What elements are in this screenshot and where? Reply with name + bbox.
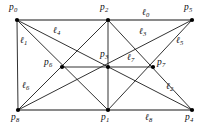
line-label-subscript: 3 bbox=[143, 30, 146, 37]
point-label-subscript: 5 bbox=[189, 6, 192, 13]
configuration-canvas bbox=[0, 0, 208, 130]
vertex-p3[interactable] bbox=[106, 65, 110, 69]
vertex-p2[interactable] bbox=[106, 18, 110, 22]
line-label-l7: ℓ7 bbox=[127, 53, 134, 62]
point-label-p5: p5 bbox=[184, 3, 192, 13]
vertex-p7[interactable] bbox=[151, 65, 155, 69]
point-label-p7: p7 bbox=[157, 58, 165, 68]
point-label-subscript: 3 bbox=[105, 53, 108, 60]
line-label-l1: ℓ1 bbox=[20, 36, 27, 45]
point-label-p6: p6 bbox=[44, 58, 52, 68]
line-label-subscript: 7 bbox=[131, 56, 134, 63]
line-label-subscript: 2 bbox=[170, 85, 173, 92]
point-label-subscript: 1 bbox=[106, 116, 109, 123]
line-label-l2: ℓ2 bbox=[166, 82, 173, 91]
line-label-l3: ℓ3 bbox=[139, 27, 146, 36]
point-label-p0: p0 bbox=[9, 3, 17, 13]
point-label-p4: p4 bbox=[185, 113, 193, 123]
point-label-subscript: 0 bbox=[14, 6, 17, 13]
point-label-p2: p2 bbox=[100, 3, 108, 13]
vertex-p1[interactable] bbox=[106, 108, 110, 112]
line-label-subscript: 6 bbox=[26, 84, 29, 91]
vertex-p6[interactable] bbox=[60, 65, 64, 69]
point-label-p3: p3 bbox=[100, 50, 108, 60]
point-label-subscript: 7 bbox=[162, 61, 165, 68]
line-label-l8: ℓ8 bbox=[145, 113, 152, 122]
line-label-l4: ℓ4 bbox=[53, 26, 60, 35]
point-label-p1: p1 bbox=[101, 113, 109, 123]
pappus-configuration-figure: p0p2p5p6p3p7p8p1p4 ℓ0ℓ1ℓ2ℓ3ℓ4ℓ5ℓ6ℓ7ℓ8 bbox=[0, 0, 208, 130]
line-label-subscript: 4 bbox=[57, 29, 60, 36]
line-label-l6: ℓ6 bbox=[22, 81, 29, 90]
line-label-subscript: 5 bbox=[180, 39, 183, 46]
line-label-l5: ℓ5 bbox=[176, 36, 183, 45]
vertex-p0[interactable] bbox=[15, 18, 19, 22]
point-label-subscript: 2 bbox=[105, 6, 108, 13]
point-label-p8: p8 bbox=[11, 113, 19, 123]
point-label-subscript: 6 bbox=[49, 61, 52, 68]
line-label-l0: ℓ0 bbox=[142, 8, 149, 17]
segment-p0-p8 bbox=[17, 20, 18, 110]
point-label-subscript: 8 bbox=[16, 116, 19, 123]
line-label-subscript: 0 bbox=[146, 11, 149, 18]
line-label-subscript: 8 bbox=[149, 116, 152, 123]
line-label-subscript: 1 bbox=[24, 39, 27, 46]
vertex-p5[interactable] bbox=[190, 18, 194, 22]
point-label-subscript: 4 bbox=[190, 116, 193, 123]
vertex-p4[interactable] bbox=[190, 108, 194, 112]
vertex-p8[interactable] bbox=[16, 108, 20, 112]
